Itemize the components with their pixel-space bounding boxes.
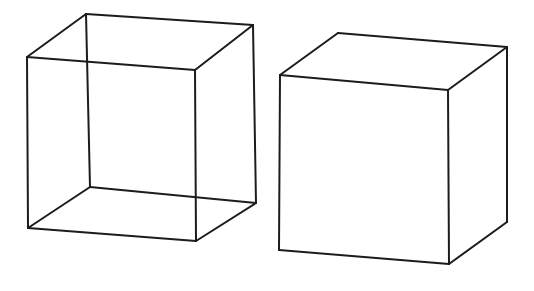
figure-canvas xyxy=(0,0,534,291)
wireframe-edge-back-left xyxy=(27,57,28,228)
cube-figure xyxy=(0,0,534,291)
wireframe-edge-back-right xyxy=(195,70,196,241)
opaque-cube xyxy=(279,33,507,264)
opaque-edge-right-back-vertical xyxy=(279,75,280,250)
opaque-cube-front-face xyxy=(279,75,449,264)
opaque-edge-top-back xyxy=(448,90,449,264)
